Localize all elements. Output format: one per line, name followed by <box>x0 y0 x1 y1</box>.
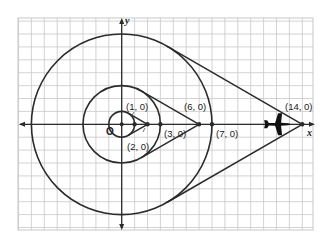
point-marker <box>210 122 214 126</box>
point-marker <box>300 122 304 126</box>
point-marker <box>132 122 136 126</box>
point-label-3-0: (3, 0) <box>164 128 186 139</box>
point-label-2-0: (2, 0) <box>127 141 149 152</box>
x-axis-label: x <box>306 127 312 138</box>
point-label-7-0: (7, 0) <box>216 128 238 139</box>
origin-label: O <box>106 126 114 137</box>
point-marker <box>197 122 201 126</box>
point-marker <box>158 122 162 126</box>
y-axis-label: y <box>124 15 130 26</box>
point-label-14-0: (14, 0) <box>285 101 312 112</box>
point-label-6-0: (6, 0) <box>184 101 206 112</box>
coordinate-diagram: y x O (1, 0) (2, 0) (3, 0) (6, 0) (7, 0)… <box>0 0 329 243</box>
point-marker <box>145 122 149 126</box>
point-label-1-0: (1, 0) <box>126 101 148 112</box>
origin-point <box>120 122 124 126</box>
